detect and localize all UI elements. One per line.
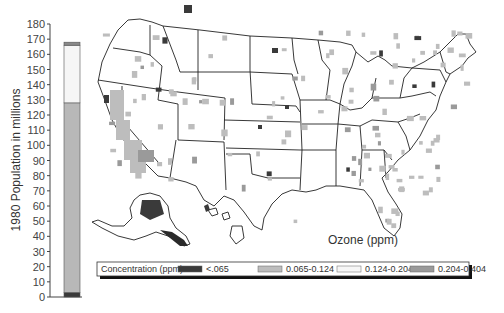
county-patch — [183, 98, 188, 105]
county-patch — [349, 100, 354, 104]
california-patch — [110, 90, 124, 120]
county-patch — [441, 63, 446, 68]
county-patch — [302, 125, 308, 130]
county-patch — [319, 31, 323, 36]
county-patch — [409, 176, 414, 179]
legend-label: 0.065-0.124 — [286, 264, 334, 274]
county-patch — [378, 141, 381, 145]
county-patch — [301, 76, 305, 81]
y-tick-label: 180 — [27, 18, 45, 30]
county-patch — [433, 50, 437, 55]
county-patch — [418, 176, 423, 179]
county-patch — [193, 77, 197, 81]
ozone-figure: 1980 Population in millions 010203040506… — [0, 0, 504, 313]
y-tick-label: 110 — [27, 124, 45, 136]
county-patch — [389, 80, 394, 85]
legend-swatch — [410, 266, 434, 272]
y-tick-label: 10 — [33, 276, 45, 288]
county-patch — [125, 112, 131, 117]
county-patch — [325, 95, 330, 98]
legend-entries: <.0650.065-0.1240.124-0.2040.204-0.404 — [178, 264, 486, 274]
y-tick-label: 20 — [33, 261, 45, 273]
county-patch — [346, 167, 350, 171]
county-patch — [285, 131, 291, 138]
county-patch — [294, 220, 298, 223]
county-patch — [208, 54, 213, 58]
county-patch — [272, 101, 275, 106]
legend-title: Concentration (ppm) — [101, 264, 183, 274]
county-patch — [141, 66, 145, 69]
county-patch — [394, 33, 399, 39]
y-tick-label: 170 — [27, 33, 45, 45]
county-patch — [435, 165, 440, 170]
hawaii-outline — [204, 204, 244, 244]
y-tick-label: 70 — [33, 185, 45, 197]
county-patch — [341, 106, 347, 111]
us-ozone-map: Ozone (ppm) — [92, 5, 476, 247]
population-bar-chart: 1980 Population in millions 010203040506… — [9, 18, 82, 303]
legend-swatch — [337, 266, 361, 272]
county-patch — [378, 207, 383, 213]
low-conc-patch — [104, 95, 109, 103]
legend-label: <.065 — [206, 264, 229, 274]
county-patch — [419, 141, 423, 145]
y-tick-label: 130 — [27, 94, 45, 106]
county-patch — [370, 51, 376, 55]
county-patch — [352, 156, 356, 161]
county-patch — [282, 48, 287, 51]
low-conc-patch — [272, 48, 278, 53]
county-patch — [326, 53, 329, 58]
california-high-patch — [138, 150, 154, 162]
y-tick-label: 30 — [33, 246, 45, 258]
county-patch — [142, 94, 146, 100]
county-patch — [292, 77, 297, 81]
county-patch — [153, 35, 160, 40]
map-title: Ozone (ppm) — [328, 233, 398, 247]
legend-label: 0.204-0.404 — [438, 264, 486, 274]
county-patch — [423, 191, 429, 196]
county-patch — [222, 35, 227, 40]
county-patch — [396, 43, 400, 48]
california-patch — [116, 120, 130, 140]
county-patch — [386, 174, 390, 180]
county-patch — [389, 165, 395, 168]
county-patch — [393, 63, 398, 68]
county-patch — [135, 173, 141, 179]
county-patch — [242, 185, 246, 192]
county-patch — [110, 149, 116, 152]
county-patch — [267, 116, 273, 120]
county-patch — [420, 51, 425, 55]
y-tick-label: 50 — [33, 215, 45, 227]
county-patch — [188, 124, 194, 129]
county-patch — [162, 37, 167, 43]
county-patch — [346, 31, 350, 36]
county-patch — [432, 82, 436, 88]
y-tick-label: 80 — [33, 170, 45, 182]
county-patch — [359, 179, 364, 182]
legend-label: 0.124-0.204 — [365, 264, 413, 274]
county-patch — [414, 36, 421, 40]
county-patch — [382, 109, 386, 115]
county-patch — [412, 58, 415, 62]
county-patch — [375, 133, 380, 138]
county-patch — [392, 168, 397, 172]
county-patch — [364, 153, 370, 159]
county-patch — [282, 139, 287, 144]
county-patch — [168, 158, 172, 165]
county-patch — [371, 84, 377, 91]
county-patch — [459, 54, 466, 58]
county-patch — [220, 100, 226, 106]
county-patch — [352, 171, 356, 176]
county-patch — [436, 135, 440, 140]
county-patch — [379, 50, 383, 56]
y-tick-label: 100 — [27, 139, 45, 151]
county-patch — [170, 91, 176, 96]
legend-swatch — [178, 266, 202, 272]
county-patch — [451, 105, 457, 110]
y-tick-label: 120 — [27, 109, 45, 121]
bar-segments — [64, 42, 80, 297]
county-patch — [373, 126, 380, 131]
county-patch — [385, 154, 392, 158]
county-patch — [158, 124, 163, 129]
county-patch — [202, 99, 209, 104]
